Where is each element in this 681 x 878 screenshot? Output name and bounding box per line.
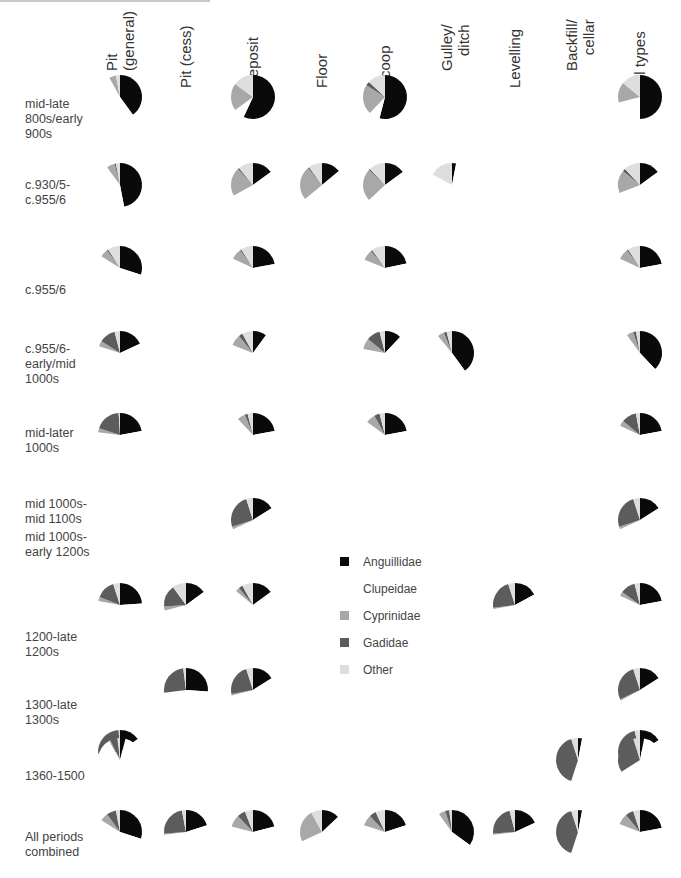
pie-chart [556, 738, 600, 782]
pie-chart [493, 583, 537, 627]
legend-item-clupeidae: Clupeidae [340, 575, 422, 602]
pie-chart [618, 498, 662, 542]
pie-chart [618, 163, 662, 207]
pie-chart [231, 163, 275, 207]
pie-chart [618, 246, 662, 290]
pie-chart [618, 75, 662, 119]
pie-grid [0, 0, 681, 878]
pie-slice-gadidae [164, 668, 186, 693]
pie-chart [300, 810, 344, 854]
legend-item-anguillidae: Anguillidae [340, 548, 422, 575]
pie-chart [300, 163, 344, 207]
pie-chart [618, 668, 662, 712]
legend-label: Gadidae [363, 636, 408, 650]
legend-label: Anguillidae [363, 555, 422, 569]
pie-slice-anguillidae [120, 583, 142, 605]
legend-swatch-icon [340, 611, 349, 620]
pie-chart [98, 75, 142, 119]
pie-chart [164, 810, 208, 854]
pie-chart [164, 583, 208, 627]
pie-chart [363, 413, 407, 457]
pie-chart [231, 75, 275, 119]
legend-swatch-icon [340, 584, 349, 593]
legend-item-other: Other [340, 656, 422, 683]
legend-label: Cyprinidae [363, 609, 420, 623]
legend: Anguillidae Clupeidae Cyprinidae Gadidae… [340, 548, 422, 683]
pie-chart [98, 413, 142, 457]
pie-chart [98, 246, 142, 290]
pie-chart [618, 583, 662, 627]
pie-chart [231, 246, 275, 290]
pie-chart [164, 668, 208, 712]
pie-chart [363, 810, 407, 854]
pie-chart [618, 331, 662, 375]
legend-label: Other [363, 663, 393, 677]
pie-slice-anguillidae [120, 163, 142, 207]
pie-chart [231, 413, 275, 457]
pie-chart [98, 331, 142, 375]
legend-item-gadidae: Gadidae [340, 629, 422, 656]
pie-chart [231, 668, 275, 712]
pie-chart [363, 246, 407, 290]
pie-chart [363, 331, 407, 375]
legend-item-cyprinidae: Cyprinidae [340, 602, 422, 629]
pie-chart [556, 810, 600, 854]
pie-chart [231, 583, 275, 627]
pie-chart [363, 75, 407, 119]
pie-chart [231, 498, 275, 542]
legend-label: Clupeidae [363, 582, 417, 596]
pie-chart [98, 738, 142, 782]
legend-swatch-icon [340, 665, 349, 674]
pie-chart [618, 413, 662, 457]
pie-chart [618, 738, 662, 782]
pie-chart [231, 331, 275, 375]
pie-chart [231, 810, 275, 854]
pie-chart [98, 583, 142, 627]
pie-chart [430, 163, 474, 207]
pie-chart [430, 331, 474, 375]
pie-slice-anguillidae [640, 75, 662, 119]
pie-slice-clupeidae [164, 690, 208, 712]
legend-swatch-icon [340, 557, 349, 566]
pie-slice-anguillidae [186, 668, 208, 691]
legend-swatch-icon [340, 638, 349, 647]
pie-chart [430, 810, 474, 854]
pie-chart [493, 810, 537, 854]
pie-chart [98, 163, 142, 207]
pie-chart [618, 810, 662, 854]
pie-chart [363, 163, 407, 207]
pie-chart [98, 810, 142, 854]
